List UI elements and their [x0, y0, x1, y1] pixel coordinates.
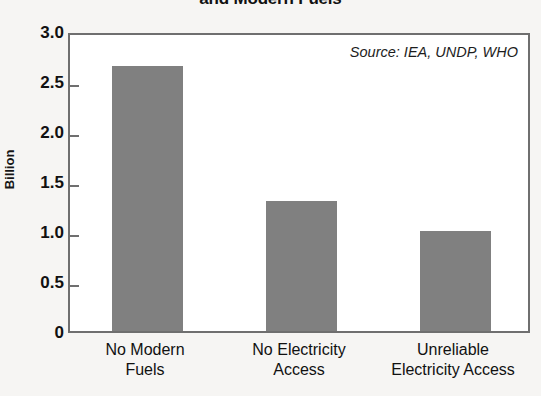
x-category-label: UnreliableElectricity Access [366, 340, 540, 380]
x-category-label-line: Electricity Access [366, 360, 540, 380]
bar [112, 66, 183, 331]
y-tick-label: 1.0 [0, 223, 72, 243]
plot-area: Source: IEA, UNDP, WHO [68, 33, 530, 333]
y-tick-label: 2.0 [0, 123, 72, 143]
y-tick-label: 2.5 [0, 73, 72, 93]
y-tick-label: 3.0 [0, 23, 72, 43]
y-tick-mark [70, 185, 79, 187]
y-tick-label: 1.5 [0, 173, 72, 193]
x-category-label-line: No Modern [58, 340, 232, 360]
bar [266, 201, 337, 331]
x-category-label-line: Unreliable [366, 340, 540, 360]
x-category-label: No ModernFuels [58, 340, 232, 380]
y-tick-label: 0.5 [0, 273, 72, 293]
y-tick-mark [70, 135, 79, 137]
bar [420, 231, 491, 331]
y-tick-mark [70, 235, 79, 237]
x-category-label: No ElectricityAccess [212, 340, 386, 380]
chart-figure: and Modern Fuels Billion 00.51.01.52.02.… [0, 0, 541, 396]
chart-title: and Modern Fuels [0, 0, 541, 9]
x-category-label-line: Fuels [58, 360, 232, 380]
y-tick-mark [70, 285, 79, 287]
x-category-label-line: No Electricity [212, 340, 386, 360]
source-annotation: Source: IEA, UNDP, WHO [350, 44, 518, 60]
y-tick-mark [70, 85, 79, 87]
x-category-label-line: Access [212, 360, 386, 380]
